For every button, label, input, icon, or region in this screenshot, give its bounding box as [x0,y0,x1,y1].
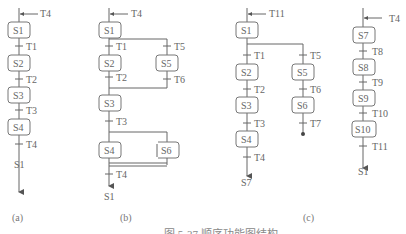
svg-text:S7: S7 [241,177,252,188]
svg-text:T4: T4 [131,8,142,19]
svg-text:S9: S9 [358,93,369,104]
svg-text:T1: T1 [26,41,37,52]
svg-text:T7: T7 [310,118,321,129]
svg-text:(b): (b) [120,212,132,224]
svg-text:T5: T5 [174,41,185,52]
svg-text:T4: T4 [254,152,265,163]
panel-b: T4 S1 T1 T5 S2 S5 T2 T6 S3 T3 S4 S6 [99,8,185,224]
svg-text:S10: S10 [355,124,371,135]
svg-text:S5: S5 [161,58,172,69]
svg-text:T3: T3 [254,118,265,129]
svg-text:S2: S2 [13,58,24,69]
svg-text:T8: T8 [372,46,383,57]
svg-text:T3: T3 [26,105,37,116]
svg-text:S4: S4 [104,145,115,156]
svg-text:S5: S5 [297,67,308,78]
svg-text:T5: T5 [310,50,321,61]
svg-text:S4: S4 [13,122,24,133]
svg-text:T1: T1 [254,50,265,61]
panel-c: T11 S1 T1 T5 S2 S5 T2 T6 S3 S6 T3 T7 S4 … [236,8,321,224]
svg-text:S3: S3 [241,100,252,111]
svg-text:T6: T6 [174,74,185,85]
svg-text:S6: S6 [297,100,308,111]
svg-text:T9: T9 [372,77,383,88]
svg-text:T2: T2 [26,74,37,85]
svg-text:S2: S2 [241,67,252,78]
svg-text:T10: T10 [372,108,388,119]
svg-text:S1: S1 [104,25,115,36]
svg-text:T3: T3 [116,116,127,127]
dead-end-dot [301,132,305,136]
svg-text:S1: S1 [14,159,25,170]
panel-d: T4 S7 T8 S8 T9 S9 T10 S10 T11 S1 [352,8,400,177]
svg-text:T1: T1 [116,41,127,52]
svg-text:T4: T4 [26,139,37,150]
svg-text:S3: S3 [104,98,115,109]
svg-text:T11: T11 [372,141,388,152]
svg-text:T4: T4 [116,169,127,180]
svg-text:T4: T4 [40,8,51,19]
svg-text:S1: S1 [358,166,369,177]
panel-a: T4 S1 T1 S2 T2 S3 T3 S4 T4 S1 (a) [8,8,51,224]
svg-text:S2: S2 [104,58,115,69]
svg-text:S3: S3 [13,90,24,101]
svg-text:T2: T2 [116,72,127,83]
svg-text:T6: T6 [310,84,321,95]
svg-text:(c): (c) [303,212,314,224]
svg-text:T4: T4 [389,13,400,24]
svg-text:S1: S1 [104,191,115,202]
svg-text:S8: S8 [358,62,369,73]
svg-text:T2: T2 [254,84,265,95]
svg-text:S6: S6 [161,145,172,156]
svg-text:S7: S7 [358,30,369,41]
sfc-diagram: T4 S1 T1 S2 T2 S3 T3 S4 T4 S1 (a) T4 S1 … [0,0,406,234]
svg-text:S1: S1 [13,25,24,36]
svg-text:S4: S4 [241,134,252,145]
svg-text:S1: S1 [241,25,252,36]
svg-text:T11: T11 [269,8,285,19]
figure-caption: 图 5-37 顺序功能图结构 [164,227,278,234]
svg-text:(a): (a) [12,212,23,224]
